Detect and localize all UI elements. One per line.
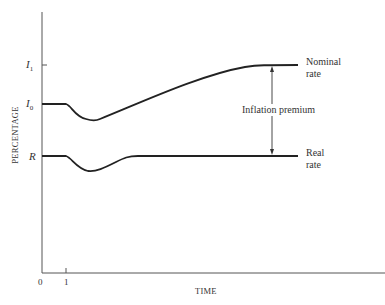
nominal-rate-label: Nominal rate <box>306 56 341 80</box>
chart-canvas <box>0 0 385 305</box>
real-rate-label-line1: Real <box>306 147 324 159</box>
y-axis-label: PERCENTAGE <box>10 105 20 165</box>
inflation-premium-label: Inflation premium <box>241 104 316 116</box>
real-rate-label-line2: rate <box>306 159 324 171</box>
y-tick-label-i1: I1 <box>26 58 33 75</box>
real-rate-label: Real rate <box>306 147 324 171</box>
y-tick-label-i0: I0 <box>26 97 33 114</box>
y-tick-label-r: R <box>29 150 36 162</box>
x-axis-label: TIME <box>195 285 217 297</box>
nominal-rate-label-line1: Nominal <box>306 56 341 68</box>
x-tick-label-0: 0 <box>38 276 43 288</box>
nominal-rate-label-line2: rate <box>306 68 341 80</box>
real-rate-line <box>42 156 298 171</box>
x-tick-label-1: 1 <box>64 276 69 288</box>
